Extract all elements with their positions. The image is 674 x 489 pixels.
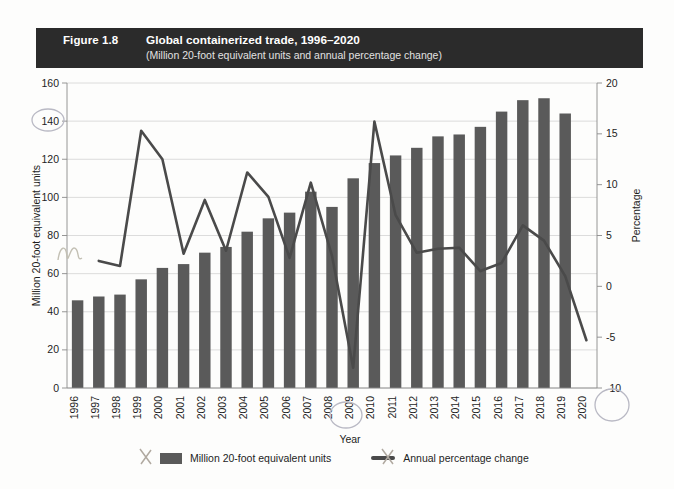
bar-2018	[538, 98, 549, 388]
x-tick-label-2011: 2011	[386, 396, 398, 419]
y-axis-left-title: Million 20-foot equivalent units	[30, 165, 42, 306]
bar-2013	[432, 136, 443, 388]
bar-2019	[559, 114, 570, 389]
bar-2012	[411, 148, 422, 388]
x-tick-label-2001: 2001	[174, 396, 186, 420]
bar-2007	[305, 192, 316, 388]
x-tick-label-2012: 2012	[407, 396, 419, 420]
y-axis-right-title: Percentage	[630, 188, 642, 242]
bar-2015	[475, 127, 486, 388]
x-tick-label-1997: 1997	[89, 396, 101, 420]
x-axis-ticks: 1996199719981999200020012002200320042005…	[68, 396, 589, 420]
x-tick-label-2014: 2014	[449, 396, 461, 420]
x-tick-label-2009: 2009	[343, 396, 355, 420]
y-tick-label-left: 60	[47, 267, 59, 279]
bar-2002	[199, 253, 210, 388]
y-tick-label-right: 15	[606, 127, 618, 139]
x-tick-label-2003: 2003	[216, 396, 228, 420]
y-tick-label-left: 140	[41, 115, 59, 127]
bar-2003	[220, 247, 231, 388]
x-tick-label-2016: 2016	[492, 396, 504, 420]
x-tick-label-2005: 2005	[258, 396, 270, 420]
bar-2017	[517, 100, 528, 388]
bar-2011	[390, 155, 401, 388]
y-tick-label-right: 5	[606, 229, 612, 241]
x-tick-label-1996: 1996	[68, 396, 80, 420]
y-tick-label-right: 10	[606, 178, 618, 190]
x-tick-label-2019: 2019	[555, 396, 567, 420]
y-tick-label-left: 80	[47, 229, 59, 241]
bar-2004	[241, 232, 252, 388]
y-tick-label-right: 0	[606, 280, 612, 292]
legend-item-line: Annual percentage change	[371, 452, 529, 464]
x-tick-label-2000: 2000	[152, 396, 164, 420]
y-axis-left-ticks: 020406080100120140160	[41, 77, 67, 394]
x-tick-label-1998: 1998	[110, 396, 122, 420]
bar-1997	[93, 297, 104, 389]
bars-group	[72, 98, 571, 388]
legend-bar-swatch-icon	[160, 453, 182, 464]
x-tick-label-2002: 2002	[195, 396, 207, 420]
bar-2000	[157, 268, 168, 388]
y-tick-label-left: 40	[47, 305, 59, 317]
y-tick-label-left: 100	[41, 191, 59, 203]
y-tick-label-right: -10	[606, 382, 621, 394]
y-tick-label-right: 20	[606, 77, 618, 89]
x-tick-label-2010: 2010	[364, 396, 376, 420]
x-tick-label-2020: 2020	[576, 396, 588, 420]
x-tick-label-2006: 2006	[280, 396, 292, 420]
y-tick-label-left: 0	[53, 382, 59, 394]
x-tick-label-2008: 2008	[322, 396, 334, 420]
chart-plot-area: 020406080100120140160 -10-505101520 1996…	[0, 0, 674, 489]
bar-1998	[114, 295, 125, 388]
chart-legend: Million 20-foot equivalent units Annual …	[160, 448, 580, 468]
bar-2008	[326, 207, 337, 388]
bar-2005	[263, 218, 274, 388]
x-tick-label-1999: 1999	[131, 396, 143, 420]
bar-1996	[72, 300, 83, 388]
legend-item-bars: Million 20-foot equivalent units	[160, 452, 331, 464]
x-axis-title: Year	[339, 433, 361, 445]
x-tick-label-2004: 2004	[237, 396, 249, 420]
x-tick-label-2018: 2018	[534, 396, 546, 420]
y-axis-right-ticks: -10-505101520	[597, 77, 621, 394]
y-tick-label-left: 160	[41, 77, 59, 89]
bar-2016	[496, 112, 507, 388]
x-tick-label-2007: 2007	[301, 396, 313, 420]
x-tick-label-2017: 2017	[513, 396, 525, 420]
chart-svg: 020406080100120140160 -10-505101520 1996…	[0, 0, 674, 489]
y-tick-label-left: 20	[47, 343, 59, 355]
y-tick-label-right: -5	[606, 331, 615, 343]
bar-2001	[178, 264, 189, 388]
bar-1999	[135, 279, 146, 388]
legend-label-bars: Million 20-foot equivalent units	[190, 452, 331, 464]
x-tick-label-2015: 2015	[470, 396, 482, 420]
bar-2010	[369, 163, 380, 388]
legend-label-line: Annual percentage change	[403, 452, 529, 464]
x-tick-label-2013: 2013	[428, 396, 440, 420]
annual-percentage-change-line	[99, 122, 587, 368]
bar-2014	[453, 134, 464, 388]
y-tick-label-left: 120	[41, 153, 59, 165]
legend-line-swatch-icon	[371, 456, 395, 460]
figure-container: Figure 1.8 Global containerized trade, 1…	[0, 0, 674, 489]
